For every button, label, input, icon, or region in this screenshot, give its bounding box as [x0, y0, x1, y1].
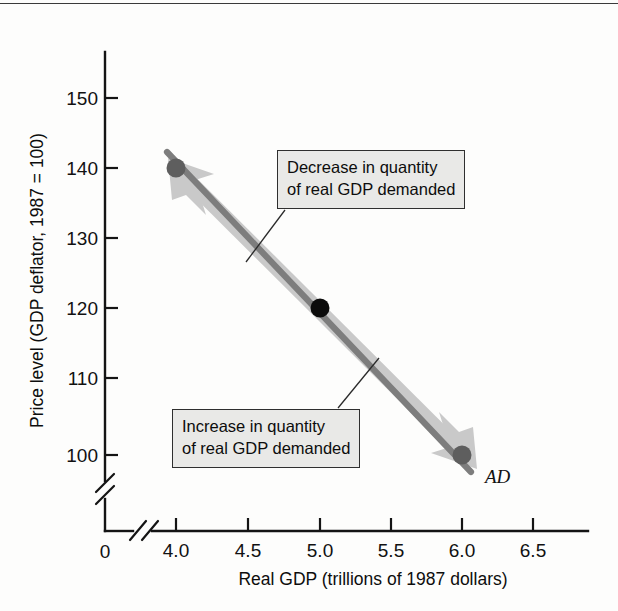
- y-tick-label-140: 140: [66, 158, 98, 179]
- y-tick-label-110: 110: [68, 368, 98, 389]
- data-point-5-0-120: [311, 299, 330, 318]
- y-tick-label-100: 100: [66, 445, 98, 466]
- ad-series-label: AD: [483, 466, 511, 487]
- origin-label-zero: 0: [100, 541, 111, 562]
- y-tick-label-150: 150: [66, 88, 98, 109]
- callout-decrease-line-1: Decrease in quantity: [287, 157, 455, 179]
- y-tick-label-130: 130: [66, 228, 98, 249]
- leader-line-increase: [338, 358, 379, 408]
- data-point-4-0-140: [167, 159, 186, 178]
- callout-decrease-in-quantity: Decrease in quantity of real GDP demande…: [277, 150, 465, 209]
- y-tick-label-120: 120: [66, 298, 98, 319]
- x-tick-label-5-0: 5.0: [307, 540, 333, 561]
- x-tick-label-4-0: 4.0: [163, 540, 189, 561]
- y-axis-title: Price level (GDP deflator, 1987 = 100): [27, 133, 47, 428]
- chart-canvas: 150 140 130 120 110 100 Price level (GDP…: [0, 0, 618, 611]
- callout-decrease-line-2: of real GDP demanded: [287, 179, 455, 201]
- callout-increase-in-quantity: Increase in quantity of real GDP demande…: [172, 409, 360, 468]
- data-point-6-0-100: [453, 446, 472, 465]
- x-axis-title: Real GDP (trillions of 1987 dollars): [238, 569, 507, 589]
- aggregate-demand-chart-figure: 150 140 130 120 110 100 Price level (GDP…: [0, 0, 618, 611]
- callout-increase-line-1: Increase in quantity: [182, 416, 350, 438]
- x-tick-label-6-0: 6.0: [449, 540, 475, 561]
- callout-increase-line-2: of real GDP demanded: [182, 438, 350, 460]
- x-tick-label-5-5: 5.5: [378, 540, 404, 561]
- x-axis-group: 4.0 4.5 5.0 5.5 6.0 6.5 0 Real GDP (tril…: [100, 518, 588, 589]
- y-axis-group: 150 140 130 120 110 100 Price level (GDP…: [27, 52, 118, 531]
- x-tick-label-6-5: 6.5: [520, 540, 546, 561]
- x-tick-label-4-5: 4.5: [235, 540, 261, 561]
